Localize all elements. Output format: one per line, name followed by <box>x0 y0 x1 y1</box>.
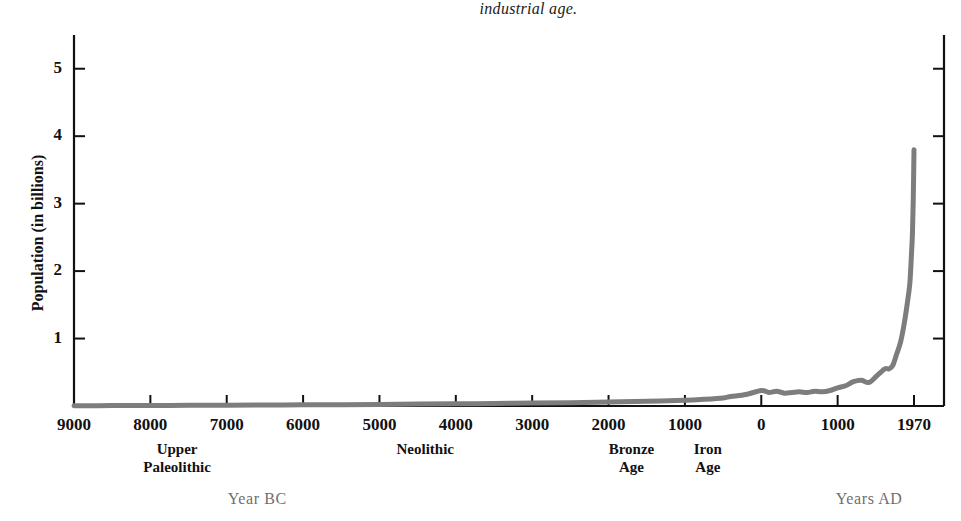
period-label-year-bc: Year BC <box>187 490 327 508</box>
x-tick-label: 9000 <box>34 415 114 435</box>
x-tick-label: 1000 <box>645 415 725 435</box>
y-tick-label: 4 <box>32 125 62 145</box>
x-tick-label: 6000 <box>263 415 343 435</box>
y-axis-ticks <box>74 69 944 339</box>
era-label-line: Upper <box>107 442 247 457</box>
population-chart: Population (in billions) 12345 900080007… <box>0 0 961 521</box>
era-label-line: Iron <box>638 442 778 457</box>
chart-series <box>74 150 914 406</box>
y-tick-label: 1 <box>32 328 62 348</box>
x-tick-label: 1000 <box>798 415 878 435</box>
x-tick-label: 3000 <box>492 415 572 435</box>
x-tick-label: 0 <box>721 415 801 435</box>
era-label-line: Neolithic <box>355 442 495 457</box>
population-curve <box>74 150 914 406</box>
era-label-upper-paleolithic: UpperPaleolithic <box>107 442 247 475</box>
period-label-years-ad: Years AD <box>799 490 939 508</box>
x-tick-label: 5000 <box>339 415 419 435</box>
era-label-iron-age: IronAge <box>638 442 778 475</box>
y-tick-label: 3 <box>32 193 62 213</box>
era-label-line: Paleolithic <box>107 460 247 475</box>
x-tick-label: 4000 <box>416 415 496 435</box>
era-label-neolithic: Neolithic <box>355 442 495 457</box>
x-tick-label: 2000 <box>569 415 649 435</box>
chart-axes <box>74 35 944 406</box>
x-tick-label: 7000 <box>187 415 267 435</box>
y-tick-label: 5 <box>32 58 62 78</box>
y-tick-label: 2 <box>32 260 62 280</box>
y-axis-title: Population (in billions) <box>29 118 47 348</box>
x-tick-label: 8000 <box>110 415 190 435</box>
x-tick-label: 1970 <box>874 415 954 435</box>
era-label-line: Age <box>638 460 778 475</box>
